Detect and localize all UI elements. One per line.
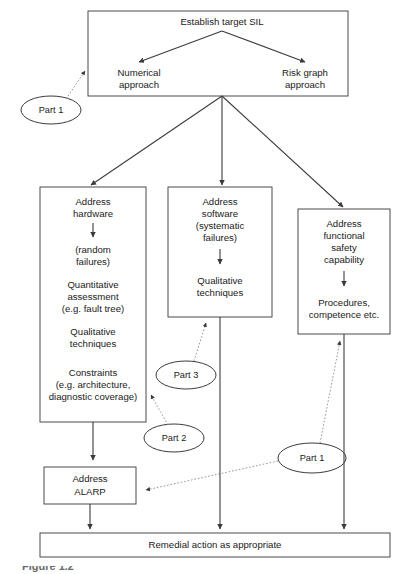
hardware-random-line2: failures) [76,256,110,267]
hardware-quant-line2: assessment [67,291,119,302]
hardware-constraints-line2: (e.g. architecture, [56,379,131,390]
figure-flowchart: Establish target SIL Numerical approach … [0,0,405,574]
fanout-to-hardware-arrow [91,96,222,185]
callout-part1-top-left-connector [66,71,85,99]
alarp-line1: Address [72,473,107,484]
software-heading-line1: Address [202,196,237,207]
risk-graph-approach-line2: approach [285,79,325,90]
capability-proc-line2: competence etc. [309,309,379,320]
capability-heading-line2: functional [323,230,364,241]
callout-part1-top-left-label: Part 1 [39,105,64,115]
callout-part2-label: Part 2 [162,433,187,443]
hardware-random-line1: (random [75,244,111,255]
numerical-approach-line1: Numerical [117,67,160,78]
callout-part2-connector [151,395,168,425]
software-qual-line2: techniques [197,287,244,298]
figure-caption-text: Figure 1.2 [22,566,142,570]
figure-caption-clipped: Figure 1.2 [22,566,142,574]
callout-part3-label: Part 3 [174,370,199,380]
flowchart-canvas: Establish target SIL Numerical approach … [0,0,405,574]
software-qual-line1: Qualitative [197,275,242,286]
callout-part1-bottom-right-label: Part 1 [300,453,325,463]
capability-heading-line3: safety [331,242,357,253]
hardware-qual-line1: Qualitative [70,326,115,337]
hardware-heading-line2: hardware [73,208,113,219]
remedial-label: Remedial action as appropriate [149,539,282,550]
hardware-heading-line1: Address [75,196,110,207]
capability-heading-line1: Address [326,218,361,229]
risk-graph-approach-line1: Risk graph [282,67,328,78]
hardware-constraints-line1: Constraints [69,367,118,378]
alarp-line2: ALARP [74,486,105,497]
callout-part1-to-capability-connector [320,341,340,443]
software-heading-line4: failures) [203,232,237,243]
software-heading-line2: software [202,208,238,219]
callout-part3-connector [194,323,206,361]
hardware-qual-line2: techniques [70,338,117,349]
hardware-quant-line1: Quantitative [67,279,118,290]
capability-proc-line1: Procedures, [318,297,370,308]
numerical-approach-line2: approach [119,79,159,90]
capability-heading-line4: capability [324,254,364,265]
callout-part1-to-alarp-connector [146,461,278,490]
hardware-constraints-line3: diagnostic coverage) [49,391,138,402]
hardware-quant-line3: (e.g. fault tree) [62,303,124,314]
top-box-title: Establish target SIL [180,16,264,27]
software-heading-line3: (systematic [196,220,245,231]
